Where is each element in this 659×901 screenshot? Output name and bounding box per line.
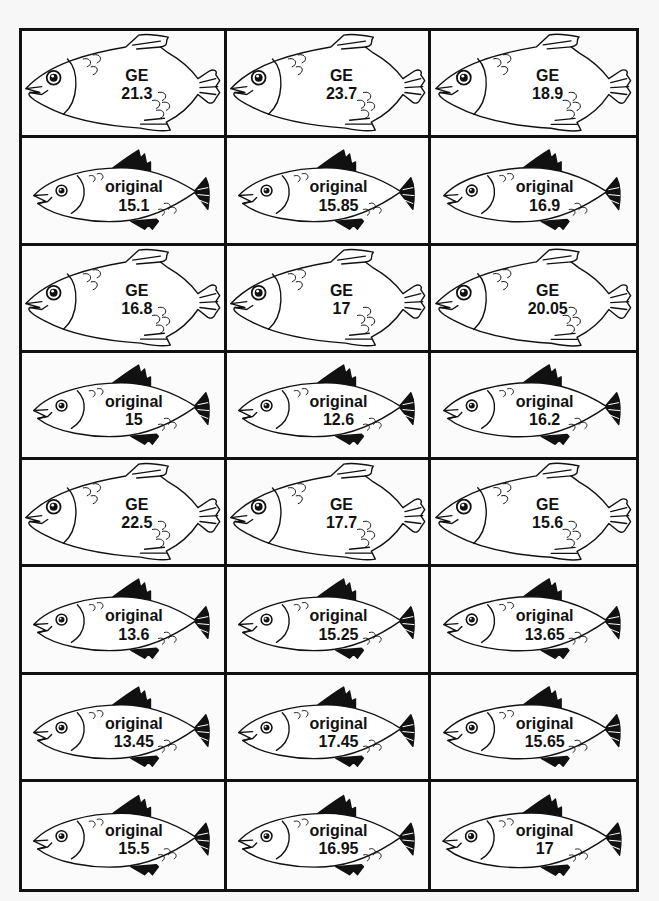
fish-type: original <box>249 393 429 411</box>
fish-value: 17.7 <box>255 514 429 532</box>
fish-card: original15.25 <box>227 567 432 674</box>
fish-value: 23.7 <box>255 85 429 103</box>
fish-type: original <box>249 607 429 625</box>
fish-value: 17.45 <box>249 733 429 751</box>
fish-value: 15.6 <box>459 514 636 532</box>
fish-label: original15.25 <box>249 607 429 644</box>
fish-type: original <box>44 393 224 411</box>
fish-label: original13.6 <box>44 607 224 644</box>
fish-value: 17 <box>255 300 429 318</box>
fish-type: original <box>44 822 224 840</box>
fish-card: original12.6 <box>227 353 432 460</box>
fish-card: original17.45 <box>227 675 432 782</box>
fish-value: 21.3 <box>50 85 224 103</box>
fish-type: GE <box>50 496 224 514</box>
fish-type: GE <box>459 67 636 85</box>
fish-card: original16.9 <box>431 138 636 245</box>
fish-value: 15 <box>44 411 224 429</box>
fish-label: original16.95 <box>249 822 429 859</box>
fish-label: GE17.7 <box>255 496 429 533</box>
fish-label: original15.1 <box>44 178 224 215</box>
fish-label: original15.5 <box>44 822 224 859</box>
fish-card: original17 <box>431 782 636 889</box>
fish-card: original16.2 <box>431 353 636 460</box>
fish-label: GE18.9 <box>459 67 636 104</box>
fish-label: GE16.8 <box>50 282 224 319</box>
fish-value: 15.1 <box>44 197 224 215</box>
fish-card: original13.45 <box>22 675 227 782</box>
fish-label: GE15.6 <box>459 496 636 533</box>
fish-type: original <box>44 715 224 733</box>
fish-type: GE <box>255 282 429 300</box>
fish-card: original15.5 <box>22 782 227 889</box>
fish-card: original13.6 <box>22 567 227 674</box>
fish-card-sheet: GE21.3 GE23.7 <box>19 28 639 892</box>
fish-value: 13.6 <box>44 626 224 644</box>
fish-type: original <box>453 607 636 625</box>
fish-value: 13.65 <box>453 626 636 644</box>
fish-type: GE <box>255 496 429 514</box>
fish-value: 16.9 <box>453 197 636 215</box>
fish-label: original17.45 <box>249 715 429 752</box>
fish-type: original <box>249 178 429 196</box>
fish-type: original <box>453 393 636 411</box>
fish-value: 12.6 <box>249 411 429 429</box>
fish-type: original <box>453 178 636 196</box>
fish-card: original13.65 <box>431 567 636 674</box>
fish-value: 20.05 <box>459 300 636 318</box>
fish-label: original13.45 <box>44 715 224 752</box>
fish-card: original15.65 <box>431 675 636 782</box>
fish-type: original <box>44 178 224 196</box>
fish-card: GE23.7 <box>227 31 432 138</box>
fish-value: 18.9 <box>459 85 636 103</box>
fish-label: GE21.3 <box>50 67 224 104</box>
fish-type: original <box>249 715 429 733</box>
fish-label: original15 <box>44 393 224 430</box>
fish-type: original <box>249 822 429 840</box>
fish-value: 17 <box>453 840 636 858</box>
fish-card: original15.85 <box>227 138 432 245</box>
fish-type: GE <box>255 67 429 85</box>
fish-type: original <box>453 822 636 840</box>
fish-value: 13.45 <box>44 733 224 751</box>
fish-type: GE <box>50 282 224 300</box>
fish-card: GE22.5 <box>22 460 227 567</box>
fish-label: original17 <box>453 822 636 859</box>
fish-label: original16.2 <box>453 393 636 430</box>
fish-value: 15.25 <box>249 626 429 644</box>
fish-label: GE22.5 <box>50 496 224 533</box>
fish-card: original16.95 <box>227 782 432 889</box>
fish-card: GE21.3 <box>22 31 227 138</box>
fish-type: original <box>44 607 224 625</box>
fish-value: 15.65 <box>453 733 636 751</box>
fish-value: 22.5 <box>50 514 224 532</box>
fish-value: 16.95 <box>249 840 429 858</box>
fish-card: GE18.9 <box>431 31 636 138</box>
fish-card: GE20.05 <box>431 246 636 353</box>
fish-type: GE <box>50 67 224 85</box>
fish-value: 16.2 <box>453 411 636 429</box>
fish-card: original15.1 <box>22 138 227 245</box>
fish-value: 15.85 <box>249 197 429 215</box>
fish-card: GE17.7 <box>227 460 432 567</box>
fish-type: original <box>453 715 636 733</box>
fish-card: GE16.8 <box>22 246 227 353</box>
fish-label: original12.6 <box>249 393 429 430</box>
fish-label: original15.85 <box>249 178 429 215</box>
fish-label: GE23.7 <box>255 67 429 104</box>
fish-type: GE <box>459 496 636 514</box>
fish-label: original13.65 <box>453 607 636 644</box>
fish-label: original15.65 <box>453 715 636 752</box>
fish-label: original16.9 <box>453 178 636 215</box>
fish-card: GE15.6 <box>431 460 636 567</box>
fish-value: 16.8 <box>50 300 224 318</box>
fish-card: GE17 <box>227 246 432 353</box>
fish-card: original15 <box>22 353 227 460</box>
fish-label: GE17 <box>255 282 429 319</box>
fish-label: GE20.05 <box>459 282 636 319</box>
fish-type: GE <box>459 282 636 300</box>
fish-value: 15.5 <box>44 840 224 858</box>
